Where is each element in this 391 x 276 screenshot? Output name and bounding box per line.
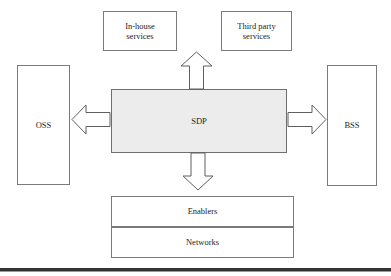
arrow-right-icon: [287, 104, 327, 135]
arrow-down-icon: [182, 152, 214, 191]
node-in-house-services-label: In-houseservices: [104, 21, 176, 41]
node-oss: OSS: [17, 65, 70, 185]
node-third-party-services: Third partyservices: [221, 11, 292, 51]
node-networks: Networks: [111, 227, 294, 258]
page-footer-rule-shadow: [0, 271, 391, 272]
arrow-up-icon: [180, 51, 213, 90]
node-bss-label: BSS: [328, 120, 376, 130]
node-third-party-services-label: Third partyservices: [222, 21, 291, 41]
node-enablers: Enablers: [111, 196, 294, 227]
node-bss: BSS: [327, 65, 377, 186]
node-in-house-services: In-houseservices: [103, 11, 177, 51]
node-sdp: SDP: [111, 89, 287, 153]
node-networks-label: Networks: [112, 237, 293, 247]
diagram-canvas: In-houseservices Third partyservices OSS…: [0, 0, 391, 276]
node-oss-label: OSS: [18, 120, 69, 130]
node-enablers-label: Enablers: [112, 206, 293, 216]
node-sdp-label: SDP: [112, 116, 286, 126]
arrow-left-icon: [71, 104, 111, 135]
